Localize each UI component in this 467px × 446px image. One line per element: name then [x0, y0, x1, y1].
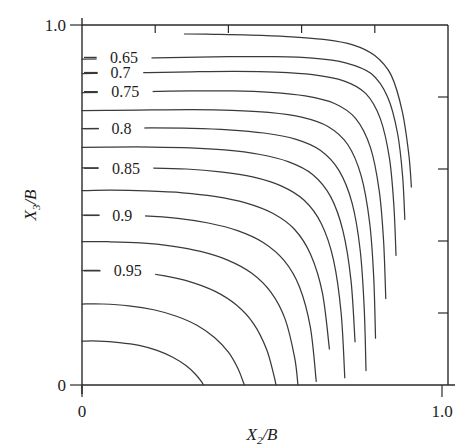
contour-label-group: 0.650.70.750.80.850.90.95 [110, 49, 142, 279]
x-axis-max-tick-label: 1.0 [431, 402, 452, 421]
contour-plot-svg: 0.650.70.750.80.850.90.95 1.0 0 0 1.0 X3… [0, 0, 467, 446]
svg-text:X3/B: X3/B [21, 189, 42, 222]
contour-label: 0.8 [112, 120, 132, 137]
contour-label: 0.95 [114, 262, 142, 279]
x-axis-min-tick-label: 0 [78, 402, 87, 421]
contour-label: 0.75 [111, 83, 139, 100]
x-axis-title: X2/B [246, 425, 279, 446]
contour-label: 0.9 [112, 207, 132, 224]
y-axis-max-tick-label: 1.0 [45, 16, 66, 35]
y-axis-title-tail: /B [21, 189, 40, 206]
y-axis-min-tick-label: 0 [58, 376, 67, 395]
y-axis-title: X3/B [21, 189, 42, 222]
y-axis-title-main: X [21, 210, 40, 222]
plot-frame [82, 18, 455, 394]
contour-line [82, 215, 316, 381]
x-axis-title-main: X [246, 425, 258, 444]
contour-line [82, 304, 245, 385]
contour-figure: 0.650.70.750.80.850.90.95 1.0 0 0 1.0 X3… [0, 0, 467, 446]
contour-label: 0.85 [112, 160, 140, 177]
svg-text:X2/B: X2/B [246, 425, 279, 446]
x-axis-title-tail: /B [261, 425, 278, 444]
contour-label-leaders [84, 57, 100, 270]
contour-label: 0.7 [110, 64, 130, 81]
contour-line [82, 341, 204, 385]
contour-line [82, 270, 276, 385]
